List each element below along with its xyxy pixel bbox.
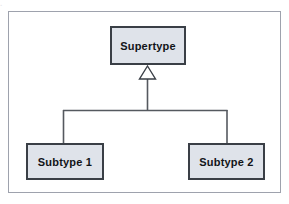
diagram-canvas: . Supertype Subtype 1 Subtype 2 xyxy=(0,0,289,204)
class-box-subtype-2[interactable]: Subtype 2 xyxy=(188,143,265,180)
class-box-subtype-1[interactable]: Subtype 1 xyxy=(26,143,104,180)
class-box-subtype-1-label: Subtype 1 xyxy=(38,156,92,168)
class-box-supertype-label: Supertype xyxy=(120,40,176,52)
class-box-subtype-2-label: Subtype 2 xyxy=(199,156,253,168)
generalization-arrowhead-icon xyxy=(140,66,156,79)
class-box-supertype[interactable]: Supertype xyxy=(110,26,186,65)
